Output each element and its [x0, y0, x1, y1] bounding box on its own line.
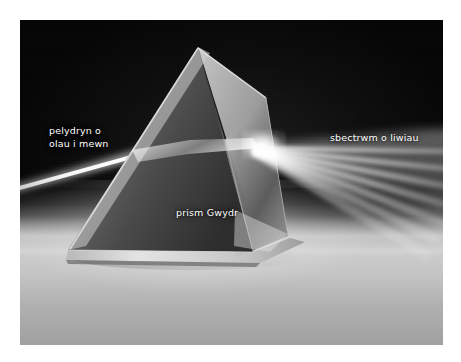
- figure-page: pelydryn o olau i mewn sbectrwm o liwiau…: [0, 0, 461, 362]
- prism-photograph: pelydryn o olau i mewn sbectrwm o liwiau…: [20, 20, 443, 345]
- triangular-glass-prism: [20, 20, 443, 345]
